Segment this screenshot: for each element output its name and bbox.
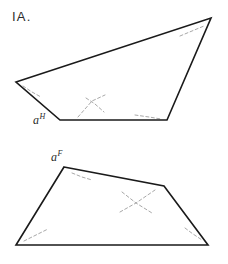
shapes-layer bbox=[16, 18, 211, 245]
bottom-quadrilateral-outline bbox=[16, 167, 208, 245]
angle-tick-bottom-left bbox=[24, 229, 48, 241]
angle-tick-bottom-right bbox=[135, 115, 161, 119]
top-quadrilateral-outline bbox=[16, 18, 211, 120]
angle-tick-top bbox=[72, 173, 92, 180]
label-a-horizontal: aH bbox=[33, 112, 45, 128]
bottom-quadrilateral bbox=[16, 167, 208, 245]
label-a-horizontal-superscript: H bbox=[39, 112, 45, 121]
cross-mark-lower bbox=[78, 95, 105, 117]
label-a-frontal-superscript: F bbox=[57, 149, 62, 158]
label-a-frontal: aF bbox=[51, 149, 62, 165]
problem-number: IA. bbox=[12, 9, 32, 24]
geometry-figure: IA. aH aF bbox=[0, 0, 228, 264]
cross-mark-center-b bbox=[120, 190, 155, 212]
figure-canvas bbox=[0, 0, 228, 264]
top-quadrilateral bbox=[16, 18, 211, 120]
